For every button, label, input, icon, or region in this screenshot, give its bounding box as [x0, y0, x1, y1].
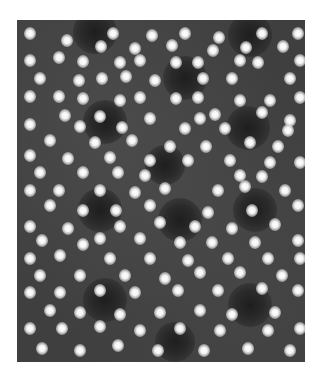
atomic-column-spot [116, 121, 128, 134]
atomic-column-spot [197, 72, 209, 85]
atomic-column-spot [24, 286, 36, 299]
atomic-column-spot [56, 322, 68, 335]
atomic-column-spot [239, 180, 251, 193]
atomic-column-spot [53, 90, 65, 103]
atomic-column-spot [282, 124, 294, 137]
atomic-column-spot [202, 206, 214, 219]
atomic-column-spot [44, 304, 56, 317]
atomic-column-spot [276, 269, 288, 282]
atomic-column-spot [182, 254, 194, 267]
atomic-column-spot [94, 110, 106, 123]
atomic-column-spot [62, 222, 74, 235]
atomic-column-spot [134, 54, 146, 67]
atomic-column-spot [294, 252, 305, 265]
atomic-column-spot [294, 54, 305, 67]
atomic-column-spot [24, 54, 36, 67]
atomic-column-spot [110, 204, 122, 217]
atomic-column-spot [36, 342, 48, 355]
atomic-column-spot [207, 44, 219, 57]
atomic-column-spot [292, 27, 304, 40]
atomic-column-spot [172, 284, 184, 297]
atomic-column-spot [174, 322, 186, 335]
atomic-column-spot [292, 234, 304, 247]
atomic-column-spot [269, 306, 281, 319]
atomic-column-spot [24, 90, 36, 103]
atomic-column-spot [214, 324, 226, 337]
atomic-column-spot [24, 220, 36, 233]
atomic-column-spot [192, 91, 204, 104]
atomic-column-spot [159, 272, 171, 285]
atomic-column-spot [129, 42, 141, 55]
atomic-column-spot [226, 222, 238, 235]
atomic-column-spot [256, 27, 268, 40]
atomic-column-spot [279, 184, 291, 197]
atomic-column-spot [114, 220, 126, 233]
atomic-column-spot [114, 308, 126, 321]
atomic-column-spot [226, 308, 238, 321]
atomic-column-spot [129, 286, 141, 299]
atomic-column-spot [134, 91, 146, 104]
atomic-column-spot [194, 112, 206, 125]
atomic-column-spot [54, 286, 66, 299]
atomic-column-spot [198, 344, 210, 357]
atomic-column-spot [44, 199, 56, 212]
atomic-column-spot [53, 51, 65, 64]
atomic-column-spot [77, 166, 89, 179]
atomic-column-spot [240, 41, 252, 54]
atomic-column-spot [120, 70, 132, 83]
atomic-column-spot [264, 156, 276, 169]
atomic-column-spot [226, 72, 238, 85]
atomic-column-spot [234, 94, 246, 107]
atomic-column-spot [212, 184, 224, 197]
atomic-column-spot [219, 122, 231, 135]
atomic-column-spot [194, 266, 206, 279]
atomic-column-spot [234, 54, 246, 67]
atomic-column-spot [94, 232, 106, 245]
atomic-column-spot [24, 252, 36, 265]
atomic-column-spot [224, 154, 236, 167]
atomic-column-spot [256, 170, 268, 183]
atomic-column-spot [179, 27, 191, 40]
atomic-column-spot [134, 232, 146, 245]
atomic-column-spot [159, 182, 171, 195]
atomic-column-spot [44, 134, 56, 147]
atomic-column-spot [112, 339, 124, 352]
atomic-column-spot [244, 136, 256, 149]
atomic-column-spot [277, 40, 289, 53]
atomic-column-spot [292, 199, 304, 212]
atomic-column-spot [54, 249, 66, 262]
atomic-column-spot [94, 184, 106, 197]
atomic-column-spot [104, 151, 116, 164]
atomic-column-spot [206, 236, 218, 249]
atomic-column-spot [24, 184, 36, 197]
atomic-column-spot [264, 94, 276, 107]
atomic-column-spot [24, 27, 36, 40]
atomic-column-spot [96, 72, 108, 85]
atomic-column-spot [34, 166, 46, 179]
atomic-column-spot [189, 220, 201, 233]
atomic-column-spot [246, 204, 258, 217]
atomic-column-spot [77, 204, 89, 217]
atomic-column-spot [107, 27, 119, 40]
atomic-column-spot [149, 74, 161, 87]
atomic-column-spot [114, 56, 126, 69]
atomic-column-spot [262, 324, 274, 337]
atomic-column-spot [292, 284, 304, 297]
atomic-column-spot [134, 324, 146, 337]
atomic-column-spot [170, 56, 182, 69]
atomic-column-spot [126, 134, 138, 147]
atomic-column-spot [164, 140, 176, 153]
atomic-column-spot [59, 109, 71, 122]
atomic-column-spot [194, 304, 206, 317]
atomic-column-spot [249, 236, 261, 249]
atomic-column-spot [170, 92, 182, 105]
atomic-column-spot [95, 40, 107, 53]
atomic-column-spot [129, 186, 141, 199]
atomic-column-spot [294, 91, 305, 104]
atomic-column-spot [256, 106, 268, 119]
atomic-column-spot [154, 306, 166, 319]
atomic-column-spot [152, 344, 164, 357]
atomic-column-spot [234, 266, 246, 279]
atomic-column-spot [61, 34, 73, 47]
atomic-column-spot [154, 216, 166, 229]
